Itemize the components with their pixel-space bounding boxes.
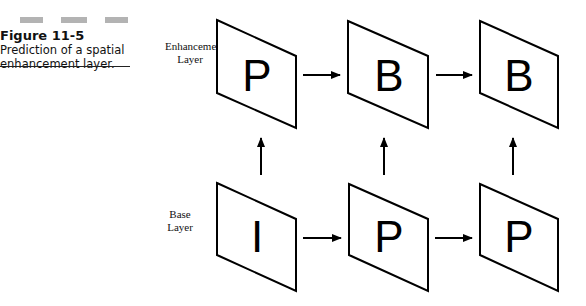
base-frame-2: P	[349, 184, 428, 291]
enhancement-frame-2: B	[348, 21, 428, 128]
base-frame-3: P	[480, 184, 558, 291]
frame-letter: B	[504, 51, 533, 100]
frame-letter: P	[374, 212, 403, 261]
frame-letter: P	[242, 51, 271, 100]
enhancement-frame-1: P	[217, 20, 296, 128]
base-frame-1: I	[217, 183, 296, 291]
layer-prediction-diagram: P B B I P P	[0, 0, 586, 306]
frame-letter: I	[251, 212, 263, 261]
enhancement-frame-3: B	[480, 21, 558, 128]
frame-letter: B	[374, 51, 403, 100]
frame-letter: P	[504, 212, 533, 261]
